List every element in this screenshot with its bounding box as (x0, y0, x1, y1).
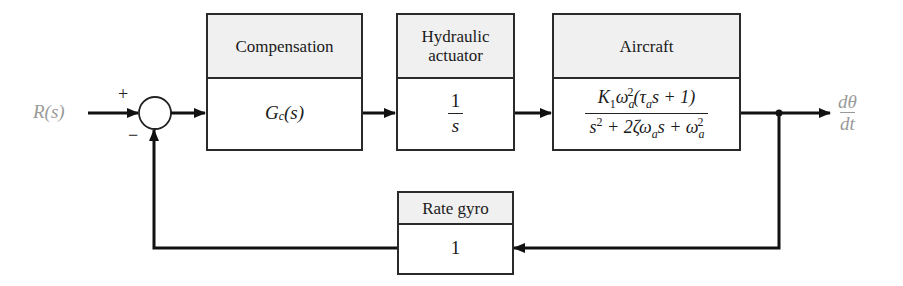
input-signal-label: R(s) (33, 101, 65, 123)
compensation-title: Compensation (208, 15, 361, 79)
aircraft-title: Aircraft (554, 15, 739, 79)
actuator-block: Hydraulic actuator 1 s (396, 13, 515, 151)
rate-gyro-transfer-function: 1 (399, 223, 512, 273)
summing-junction (139, 97, 171, 129)
aircraft-block: Aircraft K1ωa2(τas + 1) s2 + 2ζωas + ωa2 (552, 13, 741, 151)
rate-gyro-block: Rate gyro 1 (397, 191, 514, 275)
rate-gyro-title: Rate gyro (399, 193, 512, 225)
minus-sign: − (128, 125, 138, 146)
plus-sign: + (118, 84, 128, 105)
output-signal-label: dθ dt (838, 92, 857, 134)
compensation-transfer-function: Gc(s) (208, 77, 361, 149)
aircraft-transfer-function: K1ωa2(τas + 1) s2 + 2ζωas + ωa2 (554, 77, 739, 149)
actuator-transfer-function: 1 s (398, 77, 513, 149)
actuator-title: Hydraulic actuator (398, 15, 513, 79)
compensation-block: Compensation Gc(s) (206, 13, 363, 151)
